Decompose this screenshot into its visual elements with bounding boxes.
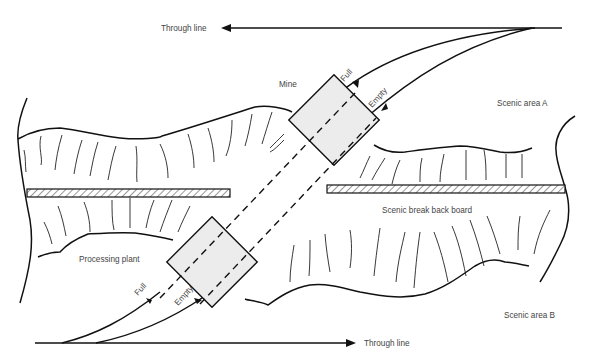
scenic-area-b-label: Scenic area B xyxy=(504,311,556,320)
right-scenic-break-board xyxy=(327,185,565,193)
bottom-through-line xyxy=(35,339,356,347)
left-scenic-break-board xyxy=(27,189,230,197)
through-line-bottom-label: Through line xyxy=(364,339,410,348)
left-terrain xyxy=(18,98,292,303)
full-track-bottom xyxy=(62,292,160,343)
scenic-area-a-label: Scenic area A xyxy=(497,99,548,108)
arrow-left-icon xyxy=(221,24,231,32)
arrow-right-icon xyxy=(346,339,356,347)
processing-plant-label: Processing plant xyxy=(79,255,140,264)
full-track-top xyxy=(338,28,535,94)
scenic-break-back-board-label: Scenic break back board xyxy=(382,206,473,215)
through-line-top-label: Through line xyxy=(161,24,207,33)
arrow-up-right-icon xyxy=(352,80,359,88)
empty-dashed-track xyxy=(200,118,376,304)
empty-track-bottom xyxy=(96,296,205,343)
mine-box xyxy=(289,75,380,166)
full-label-bottom: Full xyxy=(133,281,149,297)
scenic-railway-diagram: Through line Through line Proce xyxy=(0,0,592,357)
mine-label: Mine xyxy=(279,80,297,89)
